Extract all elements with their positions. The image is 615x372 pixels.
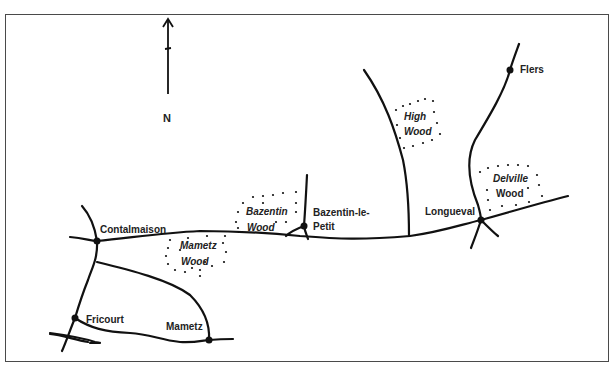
high-wood-stipple: [395, 98, 441, 149]
wood-label-mametz-line1: Mametz: [180, 240, 217, 252]
road-longueval-south: [471, 220, 481, 248]
wood-label-mametz-line2: Wood: [181, 256, 209, 268]
wood-label-bazentin-line2: Wood: [247, 222, 275, 234]
wood-label-high-line2: Wood: [404, 126, 432, 138]
north-arrow-icon: [163, 19, 173, 94]
town-label-contalmaison: Contalmaison: [100, 224, 166, 236]
town-dot-flers: [507, 67, 514, 74]
town-dot-fricourt: [72, 315, 79, 322]
road-longueval-southeast: [481, 220, 498, 236]
wood-label-delville-line1: Delville: [493, 173, 528, 185]
wood-label-bazentin-line1: Bazentin: [246, 206, 288, 218]
town-label-bazentin-line1: Bazentin-le-: [313, 207, 370, 219]
wood-label-delville-line2: Wood: [496, 188, 524, 200]
compass-north-label: N: [163, 112, 171, 124]
town-dot-longueval: [478, 217, 485, 224]
town-label-mametz: Mametz: [166, 321, 203, 333]
road-contalmaison-north: [82, 206, 97, 241]
road-high-wood: [364, 70, 409, 236]
town-label-fricourt: Fricourt: [86, 314, 124, 326]
town-label-bazentin-line2: Petit: [313, 221, 335, 233]
wood-label-high-line1: High: [404, 111, 426, 123]
town-label-flers: Flers: [520, 64, 544, 76]
town-dot-contalmaison: [94, 238, 101, 245]
town-dot-mametz: [206, 337, 213, 344]
town-dot-bazentin: [301, 223, 308, 230]
town-label-longueval: Longueval: [425, 206, 475, 218]
